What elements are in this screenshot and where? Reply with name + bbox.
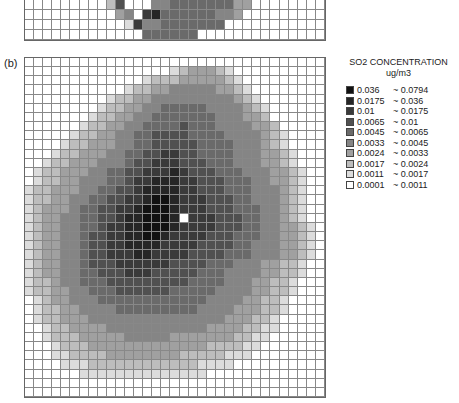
grid-cell [216,333,225,342]
legend-swatch [346,181,354,189]
grid-cell [116,67,125,76]
grid-cell [261,241,270,250]
grid-cell [43,30,52,40]
grid-cell [307,269,316,278]
grid-cell [43,177,52,186]
grid-cell [225,186,234,195]
grid-cell [25,260,34,269]
grid-cell [298,122,307,131]
grid-cell [234,351,243,360]
grid-cell [252,168,261,177]
grid-cell [189,370,198,379]
grid-cell [89,278,98,287]
grid-cell [216,58,225,67]
grid-cell [225,351,234,360]
grid-cell [225,195,234,204]
grid-cell [270,104,279,113]
grid-cell [207,351,216,360]
grid-cell [234,0,243,10]
grid-cell [34,0,43,10]
grid-cell [170,315,179,324]
grid-cell [89,131,98,140]
grid-cell [170,159,179,168]
grid-cell [161,260,170,269]
grid-cell [61,67,70,76]
grid-cell [152,168,161,177]
grid-cell [216,113,225,122]
grid-cell [125,113,134,122]
grid-cell [34,205,43,214]
grid-cell [316,131,325,140]
grid-cell [243,278,252,287]
grid-cell [116,370,125,379]
grid-cell [180,0,189,10]
grid-cell [252,30,261,40]
grid-cell [180,195,189,204]
grid-cell [261,360,270,369]
legend-item: 0.0024~ 0.0033 [346,148,459,159]
grid-cell [298,0,307,10]
grid-cell [107,104,116,113]
grid-cell [307,305,316,314]
grid-cell [134,250,143,259]
grid-cell [170,186,179,195]
grid-cell [180,223,189,232]
grid-cell [307,278,316,287]
grid-cell [43,305,52,314]
grid-cell [61,305,70,314]
grid-cell [207,241,216,250]
grid-cell [298,168,307,177]
grid-cell [43,260,52,269]
grid-cell [198,140,207,149]
grid-cell [234,20,243,30]
grid-cell [25,315,34,324]
grid-cell [43,370,52,379]
grid-cell [170,333,179,342]
grid-cell [161,122,170,131]
grid-cell [107,20,116,30]
grid-cell [107,131,116,140]
grid-cell [34,95,43,104]
legend-high-value: ~ 0.0033 [393,148,428,158]
grid-cell [25,379,34,388]
grid-cell [52,58,61,67]
grid-cell [34,351,43,360]
grid-cell [25,287,34,296]
grid-cell [316,58,325,67]
grid-cell [43,232,52,241]
grid-cell [234,168,243,177]
grid-cell [298,250,307,259]
grid-cell [207,195,216,204]
grid-cell [116,287,125,296]
grid-cell [43,85,52,94]
grid-cell [34,250,43,259]
grid-cell [89,122,98,131]
grid-cell [261,205,270,214]
grid-cell [134,20,143,30]
grid-cell [98,250,107,259]
grid-cell [189,159,198,168]
grid-cell [170,76,179,85]
grid-cell [180,168,189,177]
grid-cell [225,140,234,149]
legend-swatch [346,86,354,94]
grid-cell [70,250,79,259]
grid-cell [43,214,52,223]
grid-cell [143,287,152,296]
grid-cell [189,104,198,113]
legend-items: 0.036~ 0.07940.0175~ 0.0360.01~ 0.01750.… [346,85,459,190]
grid-cell [107,370,116,379]
grid-cell [161,131,170,140]
grid-cell [189,140,198,149]
grid-cell [98,95,107,104]
grid-cell [243,388,252,397]
grid-cell [289,95,298,104]
grid-cell [125,85,134,94]
grid-cell [252,58,261,67]
grid-cell [252,150,261,159]
grid-cell [170,140,179,149]
grid-cell [270,370,279,379]
grid-cell [216,67,225,76]
grid-cell [116,278,125,287]
grid-cell [125,0,134,10]
